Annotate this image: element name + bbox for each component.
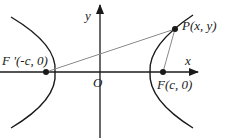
- point-p: [172, 26, 178, 32]
- x-axis-label: x: [184, 53, 191, 68]
- right-focus-point: [160, 69, 166, 75]
- origin-label: O: [93, 75, 103, 90]
- hyperbola-diagram: y x O F '(-c, 0) F(c, 0) P(x, y): [0, 0, 231, 140]
- right-focus-label: F(c, 0): [156, 77, 192, 92]
- left-focus-label: F '(-c, 0): [1, 53, 48, 68]
- left-focus-point: [43, 69, 49, 75]
- y-axis-label: y: [83, 8, 91, 23]
- segment-right-focus-to-p: [163, 29, 175, 72]
- point-p-label: P(x, y): [181, 18, 217, 33]
